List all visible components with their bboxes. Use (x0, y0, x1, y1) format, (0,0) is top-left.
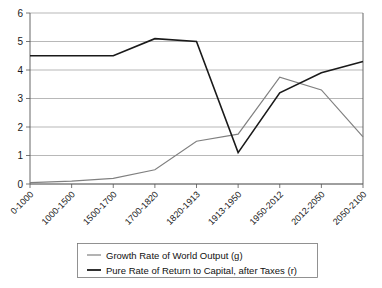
gridlines (30, 13, 363, 184)
y-tick-marks (26, 13, 30, 184)
x-tick-label: 1820-1913 (164, 189, 202, 227)
legend: Growth Rate of World Output (g)Pure Rate… (87, 250, 297, 276)
x-tick-label: 0-1000 (9, 189, 36, 216)
x-tick-label: 2012-2050 (289, 189, 327, 227)
x-tick-label: 2050-2100 (331, 189, 369, 227)
x-tick-label: 1913-1950 (206, 189, 244, 227)
x-tick-label: 1700-1820 (123, 189, 161, 227)
y-tick-label: 5 (17, 36, 23, 47)
x-tick-label: 1000-1500 (40, 189, 78, 227)
series-line-growth-rate-g (30, 77, 363, 182)
y-tick-label: 3 (17, 93, 23, 104)
x-tick-labels: 0-10001000-15001500-17001700-18201820-19… (9, 189, 369, 227)
x-tick-label: 1950-2012 (248, 189, 286, 227)
y-tick-label: 1 (17, 150, 23, 161)
y-tick-label: 0 (17, 179, 23, 190)
y-tick-label: 4 (17, 65, 23, 76)
x-tick-marks (30, 184, 363, 188)
legend-label: Growth Rate of World Output (g) (106, 250, 243, 261)
chart-container: 0123456 0-10001000-15001500-17001700-182… (0, 0, 382, 288)
series-line-return-to-capital-r (30, 39, 363, 153)
data-series (30, 39, 363, 183)
y-tick-label: 2 (17, 122, 23, 133)
x-tick-label: 1500-1700 (81, 189, 119, 227)
y-tick-label: 6 (17, 8, 23, 19)
legend-label: Pure Rate of Return to Capital, after Ta… (106, 265, 297, 276)
y-tick-labels: 0123456 (17, 8, 23, 190)
line-chart: 0123456 0-10001000-15001500-17001700-182… (0, 0, 382, 288)
